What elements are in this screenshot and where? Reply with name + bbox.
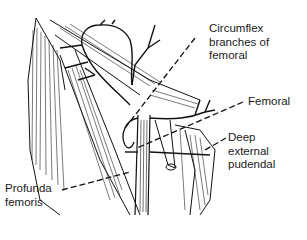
label-deep-external-pudendal: Deep external pudendal: [228, 131, 275, 172]
label-femoral: Femoral: [248, 95, 290, 109]
label-profunda-femoris: Profunda femoris: [5, 182, 52, 209]
femoral-artery: [123, 115, 176, 215]
muscle-hatching: [32, 24, 208, 210]
leader-circumflex: [125, 38, 195, 128]
leader-deep-external-pudendal: [205, 138, 226, 150]
label-circumflex-branches: Circumflex branches of femoral: [209, 22, 269, 63]
leader-profunda-femoris: [62, 172, 130, 190]
